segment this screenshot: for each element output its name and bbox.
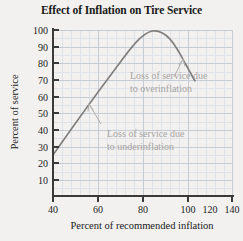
x-tick-label-60: 60 [93,204,103,215]
annotation-overinflation-line2: to overinflation [130,83,192,94]
plot-area: Loss of service due to overinflation Los… [0,0,243,241]
x-tick-label-40: 40 [48,204,58,215]
y-axis-title: Percent of service [9,74,20,150]
y-tick-label-70: 70 [38,75,48,86]
x-tick-label-120: 120 [203,204,218,215]
underinflation-leader-line [88,104,101,124]
y-tick-label-90: 90 [38,42,48,53]
y-tick-label-60: 60 [38,92,48,103]
y-tick-label-30: 30 [38,142,48,153]
y-tick-label-50: 50 [38,108,48,119]
y-tick-label-100: 100 [33,25,48,36]
chart-figure: Effect of Inflation on Tire Service [0,0,243,241]
annotation-overinflation-line1: Loss of service due [130,70,208,81]
x-axis-title: Percent of recommended inflation [70,220,214,231]
x-tick-label-140: 140 [225,204,240,215]
y-tick-label-10: 10 [38,175,48,186]
x-tick-label-80: 80 [138,204,148,215]
x-axis-tick-120-group: 120 [203,204,218,215]
annotation-underinflation-line1: Loss of service due [107,128,185,139]
y-tick-label-20: 20 [38,158,48,169]
x-tick-label-100: 100 [181,204,196,215]
y-tick-label-40: 40 [38,125,48,136]
annotation-underinflation-line2: to underinflation [107,141,174,152]
y-tick-label-80: 80 [38,58,48,69]
